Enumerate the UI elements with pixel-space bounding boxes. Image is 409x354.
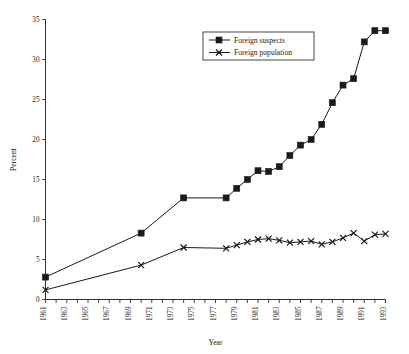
x-tick-label-1991: 1991	[358, 306, 366, 321]
legend-label-foreign-suspects: Foreign suspects	[234, 36, 285, 45]
series-foreign-population	[43, 230, 389, 293]
data-point-foreign-suspects-0	[43, 274, 49, 280]
data-point-foreign-suspects-4	[234, 185, 240, 191]
data-point-foreign-suspects-18	[383, 28, 389, 34]
y-tick-label-5: 5	[36, 256, 40, 264]
x-tick-label-1963: 1963	[61, 306, 69, 321]
legend-label-foreign-population: Foreign population	[234, 48, 292, 57]
data-point-foreign-suspects-8	[276, 164, 282, 170]
data-point-foreign-suspects-15	[351, 76, 357, 82]
data-point-foreign-suspects-17	[372, 28, 378, 34]
x-axis-title: Year	[209, 338, 223, 347]
y-tick-label-0: 0	[36, 296, 40, 304]
x-tick-label-1973: 1973	[167, 306, 175, 321]
data-point-foreign-suspects-1	[138, 230, 144, 236]
data-point-foreign-suspects-11	[308, 137, 314, 143]
line-chart: 0510152025303519611963196519671969197119…	[0, 0, 409, 354]
legend: Foreign suspectsForeign population	[203, 32, 314, 60]
x-tick-label-1985: 1985	[295, 306, 303, 321]
data-point-foreign-suspects-5	[244, 177, 250, 183]
x-tick-label-1961: 1961	[40, 306, 48, 321]
legend-marker-square	[216, 37, 222, 43]
data-point-foreign-suspects-9	[287, 153, 293, 159]
data-point-foreign-suspects-13	[329, 100, 335, 106]
y-tick-label-35: 35	[32, 16, 40, 24]
chart-figure: 0510152025303519611963196519671969197119…	[0, 0, 409, 354]
x-tick-label-1993: 1993	[380, 306, 388, 321]
x-tick-label-1971: 1971	[146, 306, 154, 321]
x-tick-label-1969: 1969	[125, 306, 133, 321]
x-tick-label-1979: 1979	[231, 306, 239, 321]
data-point-foreign-suspects-7	[266, 169, 272, 175]
x-tick-label-1977: 1977	[210, 306, 218, 321]
y-tick-label-25: 25	[32, 96, 40, 104]
x-tick-label-1987: 1987	[316, 306, 324, 321]
y-tick-label-10: 10	[32, 216, 40, 224]
data-point-foreign-suspects-14	[340, 82, 346, 88]
y-tick-label-30: 30	[32, 56, 40, 64]
data-point-foreign-suspects-12	[319, 121, 325, 127]
data-point-foreign-suspects-6	[255, 168, 261, 174]
data-point-foreign-suspects-2	[181, 195, 187, 201]
y-tick-label-20: 20	[32, 136, 40, 144]
series-foreign-suspects	[43, 28, 389, 280]
x-tick-label-1989: 1989	[337, 306, 345, 321]
y-tick-label-15: 15	[32, 176, 40, 184]
x-tick-label-1981: 1981	[252, 306, 260, 321]
x-tick-label-1965: 1965	[82, 306, 90, 321]
y-axis-title: Percent	[9, 147, 18, 171]
data-point-foreign-suspects-10	[298, 142, 304, 148]
data-point-foreign-suspects-16	[361, 39, 367, 45]
series-line-foreign-population	[46, 233, 386, 290]
data-point-foreign-suspects-3	[223, 195, 229, 201]
x-tick-label-1975: 1975	[188, 306, 196, 321]
x-tick-label-1983: 1983	[273, 306, 281, 321]
x-tick-label-1967: 1967	[103, 306, 111, 321]
